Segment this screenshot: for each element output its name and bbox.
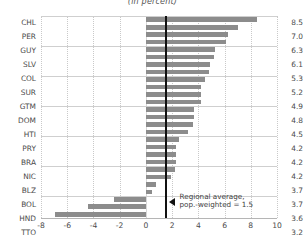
category-label: GUY [20, 47, 36, 54]
category-label: SUR [21, 89, 36, 96]
x-tick-label: 0 [143, 221, 148, 230]
category-label-row: BOL [0, 197, 39, 211]
bar [146, 160, 176, 165]
bar [55, 212, 145, 217]
value-label-row: 4.8 [279, 114, 305, 128]
value-label: 3.2 [291, 229, 303, 236]
value-label: 6.1 [291, 61, 303, 68]
bar [146, 122, 193, 127]
value-label: 4.2 [291, 145, 303, 152]
category-label: TTO [21, 229, 36, 236]
category-axis-labels: CHLPERGUYSLVCOLSURGTMDOMHTIPRYBRANICBLZB… [0, 16, 39, 218]
value-label: 4.2 [291, 173, 303, 180]
category-label: PER [22, 33, 36, 40]
value-label-row: 6.3 [279, 44, 305, 58]
category-label-row: BLZ [0, 183, 39, 197]
plot-area: Regional average, pop.-weighted = 1.5 [41, 16, 277, 218]
bar [146, 85, 201, 90]
value-label-row: 6.1 [279, 58, 305, 72]
bar [146, 137, 179, 142]
category-label-row: PER [0, 30, 39, 44]
category-label-row: DOM [0, 114, 39, 128]
value-label: 8.5 [291, 19, 303, 26]
bar [88, 204, 146, 209]
x-tick-label: -6 [63, 221, 71, 230]
category-label-row: GTM [0, 100, 39, 114]
bar [146, 190, 153, 195]
value-label: 3.7 [291, 201, 303, 208]
bar [146, 152, 176, 157]
x-axis-tick-labels: -8-6-4-20246810 [41, 221, 277, 235]
bar [146, 17, 257, 22]
regional-average-line [165, 16, 167, 218]
value-label-row: 3.2 [279, 225, 305, 239]
value-label-row: 4.2 [279, 156, 305, 170]
value-label: 5.3 [291, 75, 303, 82]
value-label-row: 4.2 [279, 142, 305, 156]
bar [146, 115, 195, 120]
value-label: 4.8 [291, 117, 303, 124]
value-label-row: 3.7 [279, 197, 305, 211]
annotation-arrow-icon [169, 198, 175, 206]
regional-average-annotation: Regional average, pop.-weighted = 1.5 [180, 193, 254, 210]
x-tick-label: 4 [196, 221, 201, 230]
bar [146, 40, 226, 45]
category-label-row: HND [0, 211, 39, 225]
bar [146, 92, 201, 97]
category-label: HND [19, 215, 36, 222]
value-label: 3.7 [291, 187, 303, 194]
value-label-row: 3.6 [279, 211, 305, 225]
value-label-row: 3.7 [279, 183, 305, 197]
value-label: 6.3 [291, 47, 303, 54]
x-tick-label: -8 [37, 221, 45, 230]
bar [146, 55, 214, 60]
category-label: COL [21, 75, 36, 82]
x-tick-label: 2 [170, 221, 175, 230]
bar [114, 197, 145, 202]
category-label: PRY [22, 145, 36, 152]
bar [146, 100, 201, 105]
x-axis-line [41, 218, 277, 219]
value-label: 4.2 [291, 159, 303, 166]
category-label-row: COL [0, 72, 39, 86]
bar [146, 130, 188, 135]
category-label-row: PRY [0, 142, 39, 156]
value-label-row: 4.5 [279, 128, 305, 142]
value-label-row: 4.9 [279, 100, 305, 114]
bar [146, 145, 176, 150]
bar-chart: (in percent) CHLPERGUYSLVCOLSURGTMDOMHTI… [0, 0, 305, 241]
category-label: NIC [23, 173, 36, 180]
category-label-row: NIC [0, 169, 39, 183]
x-tick-label: -4 [90, 221, 98, 230]
value-label: 3.6 [291, 215, 303, 222]
value-label-row: 5.3 [279, 72, 305, 86]
category-label-row: BRA [0, 156, 39, 170]
bar [146, 70, 209, 75]
category-label-row: GUY [0, 44, 39, 58]
category-label-row: SLV [0, 58, 39, 72]
category-label: GTM [20, 103, 36, 110]
bar [146, 107, 195, 112]
bar [146, 182, 156, 187]
bar [146, 25, 238, 30]
category-label-row: HTI [0, 128, 39, 142]
annotation-line-2: pop.-weighted = 1.5 [180, 201, 254, 209]
x-tick-label: 6 [222, 221, 227, 230]
category-label: BRA [21, 159, 36, 166]
x-tick-label: 8 [248, 221, 253, 230]
value-label: 5.2 [291, 89, 303, 96]
bar [146, 175, 171, 180]
bar [146, 167, 175, 172]
bar [146, 47, 215, 52]
bar [146, 77, 205, 82]
value-labels-column: 8.57.06.36.15.35.24.94.84.54.24.24.23.73… [279, 16, 305, 218]
category-label-row: SUR [0, 86, 39, 100]
value-label: 4.9 [291, 103, 303, 110]
category-label: CHL [21, 19, 36, 26]
x-tick-label: -2 [116, 221, 124, 230]
category-label-row: CHL [0, 16, 39, 30]
value-label: 4.5 [291, 131, 303, 138]
bar [146, 32, 229, 37]
category-label: BLZ [22, 187, 36, 194]
value-label-row: 8.5 [279, 16, 305, 30]
